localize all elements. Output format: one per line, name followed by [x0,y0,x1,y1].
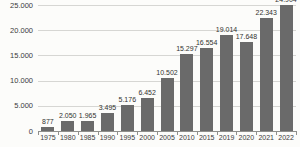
bar-value-label: 17.648 [229,33,263,41]
x-axis-category-label: 1985 [77,134,99,142]
y-axis-tick-label: 5.000 [0,101,33,110]
x-axis-category-label: 1980 [57,134,79,142]
x-axis-category-label: 2015 [196,134,218,142]
bar-value-label: 1.965 [71,112,105,120]
y-gridline [38,5,296,6]
bar-chart: 05.00010.00015.00020.00025.00087719752.0… [0,0,300,147]
x-axis-category-label: 2021 [255,134,277,142]
x-axis-category-label: 2019 [216,134,238,142]
bar [61,121,74,131]
x-axis-category-label: 2005 [156,134,178,142]
bar [121,105,134,131]
x-axis-category-label: 1975 [37,134,59,142]
bar [141,98,154,131]
bar-value-label: 16.554 [190,39,224,47]
bar-value-label: 22.343 [249,9,283,17]
bar-value-label: 24.904 [269,0,300,4]
y-axis-tick-label: 25.000 [0,1,33,10]
bar [180,54,193,131]
y-axis-tick-label: 15.000 [0,51,33,60]
x-axis-category-label: 2022 [275,134,297,142]
bar-value-label: 3.495 [90,104,124,112]
x-axis-category-label: 2000 [136,134,158,142]
y-gridline [38,30,296,31]
bar [280,5,293,131]
y-axis-tick-label: 20.000 [0,26,33,35]
bar [41,127,54,131]
y-axis-tick-label: 10.000 [0,76,33,85]
bar [200,48,213,131]
bar [81,121,94,131]
bar [101,113,114,131]
bar-value-label: 10.502 [150,69,184,77]
bar [240,42,253,131]
y-gridline [38,55,296,56]
x-axis-category-label: 2010 [176,134,198,142]
bar [220,35,233,131]
y-axis-tick-label: 0 [0,127,33,136]
x-axis-category-label: 1995 [116,134,138,142]
bar [260,18,273,131]
x-axis-category-label: 2020 [235,134,257,142]
x-axis-category-label: 1990 [96,134,118,142]
bar-value-label: 6.452 [130,89,164,97]
bar [161,78,174,131]
